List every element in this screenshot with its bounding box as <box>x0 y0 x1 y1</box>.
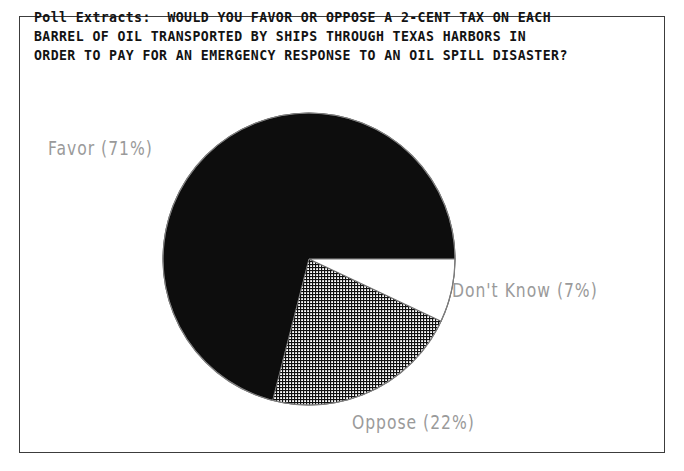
page-border-frame <box>19 16 665 453</box>
scanned-page: Poll Extracts: WOULD YOU FAVOR OR OPPOSE… <box>0 0 684 471</box>
slice-label-favor: Favor (71%) <box>48 137 153 159</box>
title-line-3: ORDER TO PAY FOR AN EMERGENCY RESPONSE T… <box>20 46 630 65</box>
slice-label-dont-know: Don't Know (7%) <box>452 279 598 301</box>
chart-title: Poll Extracts: WOULD YOU FAVOR OR OPPOSE… <box>20 8 630 65</box>
title-line-1: Poll Extracts: WOULD YOU FAVOR OR OPPOSE… <box>20 8 630 27</box>
slice-label-oppose: Oppose (22%) <box>352 411 475 433</box>
title-line-2: BARREL OF OIL TRANSPORTED BY SHIPS THROU… <box>20 27 630 46</box>
